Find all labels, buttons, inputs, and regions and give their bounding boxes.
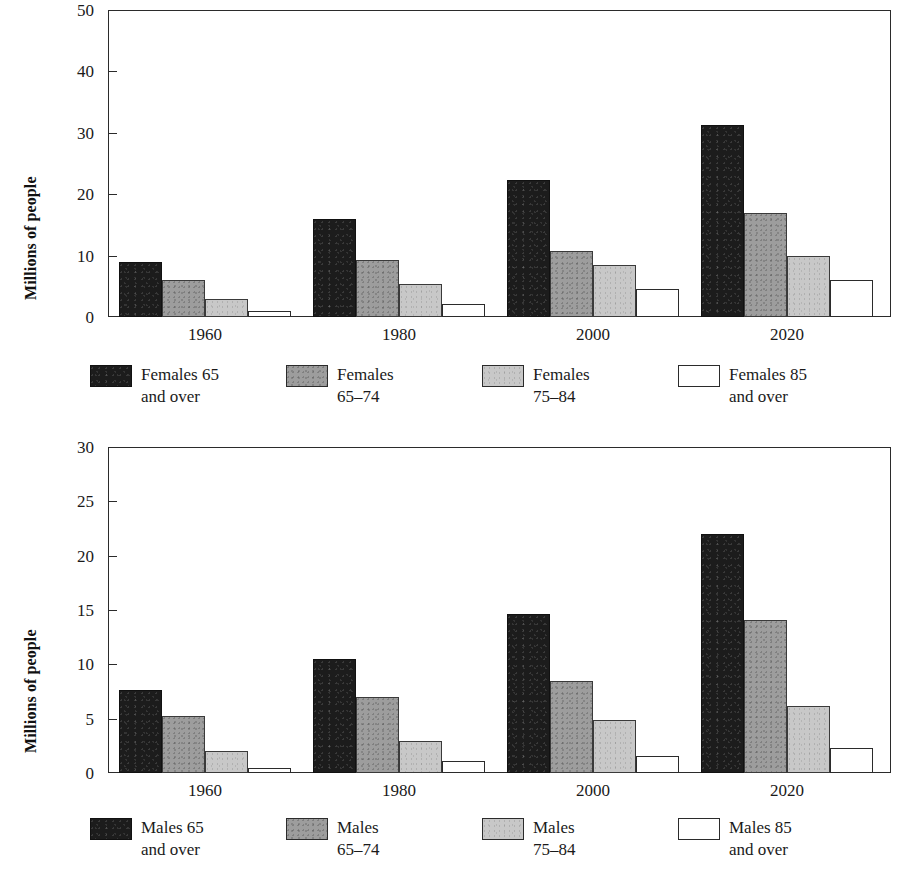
y-axis-tick-label: 30 — [77, 124, 94, 141]
y-axis-tick — [108, 133, 117, 134]
bar-1980-white — [442, 304, 485, 317]
bar-1960-dark — [162, 716, 205, 773]
y-axis-tick-label: 0 — [86, 765, 95, 782]
legend-label: Females 65 and over — [141, 364, 219, 409]
x-axis-label-2020: 2020 — [770, 782, 804, 799]
bar-2020-white — [830, 280, 873, 317]
y-axis-tick — [108, 610, 117, 611]
x-axis-label-2000: 2000 — [576, 326, 610, 343]
legend-swatch-black-icon — [90, 365, 132, 387]
y-axis-tick-label: 0 — [86, 309, 95, 326]
chart-panel-females: Millions of people 01020304050 196019802… — [0, 0, 901, 432]
legend-item-white[interactable]: Males 85 and over — [678, 817, 792, 862]
bar-2020-light — [787, 706, 830, 773]
legend-label: Females 65–74 — [337, 364, 394, 409]
legend-swatch-dark-icon — [286, 818, 328, 840]
y-axis-tick-label: 20 — [77, 547, 94, 564]
y-axis-tick — [108, 501, 117, 502]
legend-swatch-light-icon — [482, 365, 524, 387]
bar-2000-dark — [550, 251, 593, 317]
legend-swatch-dark-icon — [286, 365, 328, 387]
y-axis-tick-label: 15 — [77, 602, 94, 619]
legend-swatch-black-icon — [90, 818, 132, 840]
bar-1980-light — [399, 284, 442, 317]
bar-1960-black — [119, 262, 162, 317]
legend-males: Males 65 and overMales 65–74Males 75–84M… — [0, 817, 901, 873]
y-axis-tick-label: 10 — [77, 247, 94, 264]
y-axis-tick — [108, 194, 117, 195]
legend-label: Females 75–84 — [533, 364, 590, 409]
legend-label: Females 85 and over — [729, 364, 807, 409]
y-axis-title-top: Millions of people — [22, 176, 40, 300]
bar-2000-light — [593, 265, 636, 317]
bar-2020-black — [701, 125, 744, 317]
y-axis-tick — [108, 719, 117, 720]
legend-label: Males 75–84 — [533, 817, 576, 862]
chart-panel-males: Millions of people 051015202530 19601980… — [0, 435, 901, 873]
y-axis-tick-label: 30 — [77, 439, 94, 456]
legend-females: Females 65 and overFemales 65–74Females … — [0, 364, 901, 426]
bar-2000-light — [593, 720, 636, 773]
y-axis-tick — [108, 71, 117, 72]
legend-item-black[interactable]: Males 65 and over — [90, 817, 204, 862]
bar-2020-light — [787, 256, 830, 317]
x-axis-label-2000: 2000 — [576, 782, 610, 799]
bar-1960-light — [205, 751, 248, 773]
legend-item-light[interactable]: Males 75–84 — [482, 817, 576, 862]
x-axis-label-1980: 1980 — [382, 326, 416, 343]
bar-2020-dark — [744, 620, 787, 773]
legend-item-dark[interactable]: Females 65–74 — [286, 364, 394, 409]
legend-swatch-light-icon — [482, 818, 524, 840]
legend-label: Males 65 and over — [141, 817, 204, 862]
bar-1980-dark — [356, 697, 399, 773]
bar-2000-white — [636, 289, 679, 317]
bar-2000-dark — [550, 681, 593, 773]
bar-2000-black — [507, 614, 550, 773]
y-axis-tick-label: 5 — [86, 710, 95, 727]
bar-2020-white — [830, 748, 873, 773]
bar-1960-white — [248, 311, 291, 317]
y-axis-title-bottom: Millions of people — [22, 629, 40, 753]
y-axis-tick-label: 40 — [77, 63, 94, 80]
legend-swatch-white-icon — [678, 365, 720, 387]
x-axis-label-1960: 1960 — [188, 782, 222, 799]
figure-two-bar-charts: Millions of people 01020304050 196019802… — [0, 0, 901, 873]
bar-2020-black — [701, 534, 744, 773]
bar-1980-light — [399, 741, 442, 773]
x-axis-label-1960: 1960 — [188, 326, 222, 343]
bar-2000-white — [636, 756, 679, 773]
bar-1960-dark — [162, 280, 205, 317]
x-axis-label-2020: 2020 — [770, 326, 804, 343]
legend-swatch-white-icon — [678, 818, 720, 840]
legend-item-black[interactable]: Females 65 and over — [90, 364, 219, 409]
legend-label: Males 85 and over — [729, 817, 792, 862]
legend-label: Males 65–74 — [337, 817, 380, 862]
legend-item-light[interactable]: Females 75–84 — [482, 364, 590, 409]
bar-2020-dark — [744, 213, 787, 317]
legend-item-dark[interactable]: Males 65–74 — [286, 817, 380, 862]
bar-1960-light — [205, 299, 248, 317]
y-axis-tick-label: 10 — [77, 656, 94, 673]
bar-1980-black — [313, 659, 356, 773]
x-axis-label-1980: 1980 — [382, 782, 416, 799]
y-axis-tick — [108, 664, 117, 665]
bar-1980-dark — [356, 260, 399, 317]
y-axis-tick-label: 50 — [77, 2, 94, 19]
bar-1980-black — [313, 219, 356, 317]
y-axis-tick-label: 25 — [77, 493, 94, 510]
bar-1980-white — [442, 761, 485, 773]
y-axis-tick — [108, 256, 117, 257]
y-axis-tick-label: 20 — [77, 186, 94, 203]
y-axis-tick — [108, 556, 117, 557]
bar-2000-black — [507, 180, 550, 317]
legend-item-white[interactable]: Females 85 and over — [678, 364, 807, 409]
bar-1960-white — [248, 768, 291, 773]
bar-1960-black — [119, 690, 162, 773]
